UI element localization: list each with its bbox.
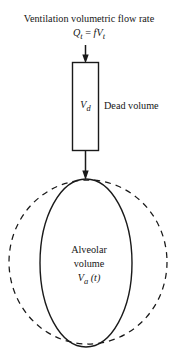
dead-volume-symbol-subscript: d — [86, 104, 90, 113]
diagram-canvas — [0, 0, 178, 359]
flow-equals: = — [83, 27, 94, 38]
respiratory-compartment-diagram: Ventilation volumetric flow rate Qt = fV… — [0, 0, 178, 359]
alveolar-volume-expression: Va (t) — [44, 271, 134, 288]
alveolar-volume-label-block: Alveolar volume Va (t) — [44, 243, 134, 287]
dead-volume-label: Dead volume — [104, 100, 159, 111]
dead-volume-symbol: Vd — [73, 100, 98, 113]
figure-title: Ventilation volumetric flow rate — [0, 13, 178, 24]
inflow-arrow-icon — [82, 45, 88, 64]
alveolar-label-line2: volume — [44, 257, 134, 271]
flow-equation: Qt = fVt — [0, 27, 178, 41]
flow-rhs-subscript: t — [103, 31, 105, 41]
alveolar-time-argument: (t) — [88, 272, 100, 283]
transfer-arrow-icon — [82, 150, 88, 180]
alveolar-label-line1: Alveolar — [44, 243, 134, 257]
